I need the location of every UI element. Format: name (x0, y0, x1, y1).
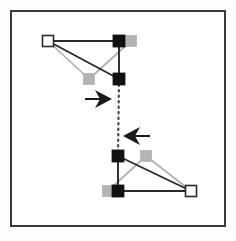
vertex-marker-bottom-black-upper-left (112, 150, 124, 162)
dotted-correspondence-line (118, 79, 119, 156)
vertex-marker-bottom-black-lower-left (112, 185, 124, 197)
vertex-marker-top-hollow-vertex (43, 36, 54, 47)
diagram-canvas (0, 0, 236, 241)
vertex-marker-top-black-upper-right (113, 35, 125, 47)
vertex-marker-top-gray-upper-right (126, 36, 137, 47)
vertex-marker-top-black-lower-right (113, 73, 125, 85)
vertex-marker-bottom-gray-upper (141, 151, 152, 162)
vertex-marker-top-gray-middle (84, 74, 95, 85)
vertex-marker-bottom-hollow-vertex (186, 186, 197, 197)
figure-root (0, 0, 236, 241)
